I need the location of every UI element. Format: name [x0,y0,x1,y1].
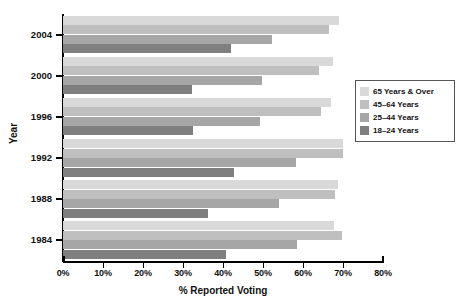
bar-2004-series-1 [63,25,329,34]
bar-1996-series-3 [63,126,193,135]
bar-1984-series-1 [63,231,342,240]
y-tick-label-1996: 1996 [0,111,52,122]
y-tick-1984 [56,239,63,241]
x-tick-label-70%: 70% [323,268,363,278]
bar-2000-series-0 [63,57,333,66]
legend-item-1: 45–64 Years [360,98,451,111]
x-tick-label-30%: 30% [163,268,203,278]
y-tick-2000 [56,75,63,77]
x-tick-label-10%: 10% [83,268,123,278]
y-tick-label-1988: 1988 [0,193,52,204]
voting-by-age-bar-chart: Year 200420001996199219881984 0%10%20%30… [0,0,466,306]
bar-1984-series-3 [63,250,226,259]
bar-1992-series-3 [63,168,234,177]
legend-item-2: 25–44 Years [360,111,451,124]
y-tick-1996 [56,116,63,118]
bar-1992-series-2 [63,158,296,167]
x-axis-left-cap [63,256,65,263]
legend-swatch-icon-0 [360,87,369,96]
x-tick-label-20%: 20% [123,268,163,278]
bar-group-1992 [63,139,383,177]
x-axis-title: % Reported Voting [63,285,383,296]
bar-2000-series-3 [63,85,192,94]
legend: 65 Years & Over45–64 Years25–44 Years18–… [355,80,455,142]
x-tick-label-0%: 0% [43,268,83,278]
x-tick-label-40%: 40% [203,268,243,278]
bar-1992-series-0 [63,139,343,148]
y-tick-2004 [56,34,63,36]
legend-label-3: 18–24 Years [373,126,419,135]
legend-label-0: 65 Years & Over [373,87,434,96]
bar-group-2004 [63,16,383,54]
plot-area [63,14,383,262]
bar-1988-series-3 [63,209,208,218]
x-tick-label-60%: 60% [283,268,323,278]
bar-group-2000 [63,57,383,95]
bar-2004-series-2 [63,35,272,44]
bar-2004-series-0 [63,16,339,25]
bar-2000-series-2 [63,76,262,85]
x-axis-right-cap [382,256,384,263]
bar-2004-series-3 [63,44,231,53]
legend-swatch-icon-1 [360,100,369,109]
bar-group-1984 [63,221,383,259]
y-tick-label-2000: 2000 [0,70,52,81]
legend-swatch-icon-2 [360,113,369,122]
y-tick-label-2004: 2004 [0,29,52,40]
bar-1996-series-1 [63,107,321,116]
bar-group-1988 [63,180,383,218]
x-tick-label-80%: 80% [363,268,403,278]
y-tick-label-1992: 1992 [0,152,52,163]
bar-1984-series-2 [63,240,297,249]
x-tick-label-50%: 50% [243,268,283,278]
bar-group-1996 [63,98,383,136]
legend-item-3: 18–24 Years [360,124,451,137]
bar-1996-series-2 [63,117,260,126]
legend-swatch-icon-3 [360,126,369,135]
bar-1988-series-2 [63,199,279,208]
legend-item-0: 65 Years & Over [360,85,451,98]
bar-1988-series-0 [63,180,338,189]
bar-1984-series-0 [63,221,334,230]
bar-1996-series-0 [63,98,331,107]
legend-label-2: 25–44 Years [373,113,419,122]
bar-1992-series-1 [63,149,343,158]
bar-1988-series-1 [63,190,335,199]
legend-label-1: 45–64 Years [373,100,419,109]
y-tick-1992 [56,157,63,159]
bar-2000-series-1 [63,66,319,75]
y-tick-label-1984: 1984 [0,234,52,245]
y-tick-1988 [56,198,63,200]
